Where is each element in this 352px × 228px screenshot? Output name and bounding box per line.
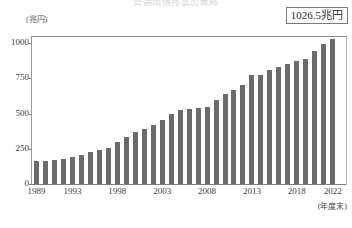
value-callout-badge: 1026.5兆円	[286, 7, 348, 24]
bar	[34, 161, 39, 184]
x-axis-tick-label: 1989	[27, 186, 45, 196]
y-axis-tick-label: 250	[1, 144, 29, 153]
bar	[97, 150, 102, 184]
bar	[294, 61, 299, 184]
bar	[267, 70, 272, 184]
bar	[303, 59, 308, 184]
bar	[285, 64, 290, 184]
bar	[106, 148, 111, 184]
y-axis-tick-label: 750	[1, 73, 29, 82]
bar	[151, 125, 156, 184]
chart-screenshot: 普通国債残高の推移 1026.5兆円 (兆円) 02505007501000 1…	[0, 0, 352, 228]
bar	[258, 75, 263, 184]
bar	[231, 90, 236, 184]
x-axis-tick-label: 2022	[324, 186, 342, 196]
y-axis-tick-label: 1000	[1, 38, 29, 47]
bar	[61, 159, 66, 184]
bar	[276, 67, 281, 184]
bar	[115, 142, 120, 184]
x-axis-tick-labels: 19891993199820032008201320182022	[0, 186, 352, 200]
bar	[321, 44, 326, 184]
bar	[88, 152, 93, 184]
bar	[70, 157, 75, 184]
bar	[214, 100, 219, 184]
bar	[205, 107, 210, 184]
bar	[160, 120, 165, 184]
bar-series	[31, 36, 347, 184]
bar	[178, 110, 183, 184]
bar	[312, 51, 317, 184]
bar	[196, 108, 201, 184]
bar	[330, 39, 335, 184]
bar	[187, 109, 192, 184]
chart-title: 普通国債残高の推移	[0, 0, 352, 6]
bar	[124, 137, 129, 184]
bar	[169, 114, 174, 184]
y-axis-tick-label: 500	[1, 109, 29, 118]
bar	[79, 155, 84, 184]
y-axis-unit-label: (兆円)	[26, 13, 47, 24]
x-axis-tick-label: 1993	[63, 186, 81, 196]
x-axis-line	[31, 184, 347, 185]
x-axis-tick-label: 2013	[243, 186, 261, 196]
x-axis-tick-label: 2003	[153, 186, 171, 196]
x-axis-tick-label: 2018	[288, 186, 306, 196]
bar	[133, 132, 138, 184]
bar	[142, 129, 147, 184]
bar	[223, 94, 228, 184]
bar	[43, 161, 48, 184]
x-axis-note-label: (年度末)	[318, 200, 347, 211]
bar	[52, 160, 57, 184]
x-axis-tick-label: 1998	[108, 186, 126, 196]
x-axis-tick-label: 2008	[198, 186, 216, 196]
bar	[240, 85, 245, 184]
bar	[249, 75, 254, 184]
